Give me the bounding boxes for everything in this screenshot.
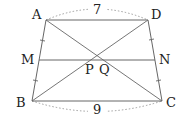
label-a: A [31, 7, 42, 22]
measure-ad: 7 [93, 2, 101, 17]
label-q: Q [99, 62, 110, 77]
label-d: D [151, 7, 161, 22]
label-n: N [159, 52, 170, 67]
label-c: C [166, 95, 176, 110]
trapezoid-diagram: A D M N B C P Q 7 9 [0, 0, 184, 120]
tick-am [40, 40, 45, 41]
tick-dn [149, 39, 154, 40]
label-p: P [85, 62, 94, 77]
measure-bc: 9 [93, 102, 101, 117]
label-b: B [16, 95, 26, 110]
label-m: M [21, 52, 34, 67]
tick-nc [156, 80, 161, 81]
tick-mb [33, 80, 38, 81]
